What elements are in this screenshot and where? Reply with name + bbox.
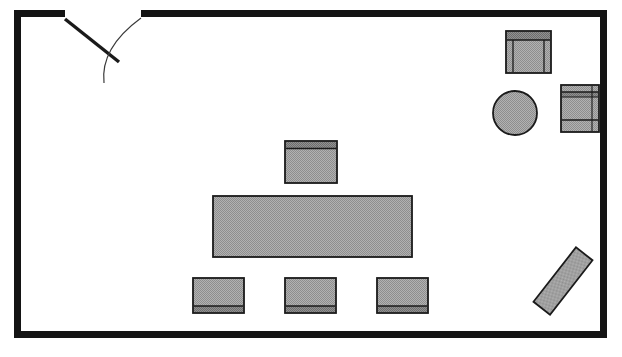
chair-north-back <box>286 142 336 148</box>
floor-plan-canvas: Room Floor Plan main-room Conference Tab… <box>0 0 622 357</box>
chair-south-left <box>193 278 244 313</box>
round-table-top <box>493 91 537 135</box>
wall-right <box>600 10 607 338</box>
chair-south-right <box>377 278 428 313</box>
armchair-east <box>561 85 599 132</box>
conference-table <box>213 196 412 257</box>
round-table <box>493 91 537 135</box>
conference-table-top <box>213 196 412 257</box>
chair-south-left-back <box>194 306 243 312</box>
chair-south-center <box>285 278 336 313</box>
chair-south-right-back <box>378 306 427 312</box>
chair-north <box>285 141 337 183</box>
floor-plan-drawing <box>0 0 622 357</box>
wall-top-right-segment <box>141 10 607 17</box>
wall-left <box>14 10 21 338</box>
armchair-north <box>506 31 551 73</box>
chair-south-center-back <box>286 306 335 312</box>
armchair-east-back <box>562 92 598 97</box>
wall-bottom <box>14 331 607 338</box>
wall-top-left-segment <box>14 10 65 17</box>
armchair-north-back <box>507 32 550 40</box>
